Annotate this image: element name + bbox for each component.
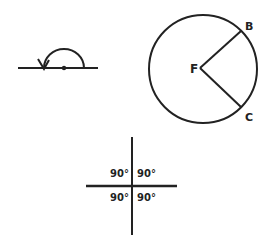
label-point-c: C [245,111,253,124]
circle-figure: F B C [149,15,257,124]
perpendicular-cross-figure: 90° 90° 90° 90° [86,137,177,235]
angle-label-top-right: 90° [137,168,156,179]
label-center-f: F [190,62,198,76]
radius-fc [200,68,241,107]
angle-label-top-left: 90° [110,168,129,179]
angle-label-bottom-right: 90° [137,192,156,203]
straight-angle-figure [18,49,98,70]
angle-label-bottom-left: 90° [110,192,129,203]
vertex-point [62,66,66,70]
label-point-b: B [245,20,253,33]
rotation-arc [44,49,84,68]
geometry-diagram: F B C 90° 90° 90° 90° [0,0,275,250]
radius-fb [200,31,241,68]
